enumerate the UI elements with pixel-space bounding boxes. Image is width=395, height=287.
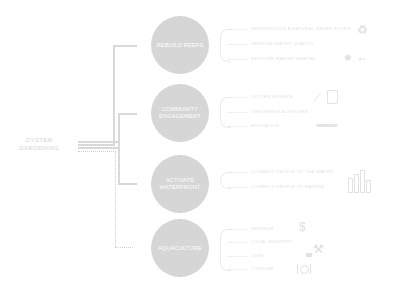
connector-vertical-reefs (113, 45, 115, 145)
connector-vertical-waterfront (118, 147, 120, 184)
microscope-icon: ⟋ (314, 93, 321, 103)
dining-icon (297, 264, 311, 274)
dash (228, 126, 248, 127)
item-community-1: CITIZEN SCIENCE (251, 94, 293, 99)
item-waterfront-2: CONNECT PEOPLE TO NATURE (251, 184, 325, 189)
connector-horizontal-aquaculture (115, 247, 133, 248)
connector-vertical-community (118, 113, 120, 148)
basket-icon (306, 253, 312, 257)
fish-icon: ➳ (358, 54, 366, 64)
node-activate-waterfront: ACTIVATE WATERFRONT (151, 155, 209, 213)
boat-icon (316, 124, 338, 127)
dash (228, 29, 248, 30)
dash (228, 242, 248, 243)
trunk-line-3 (78, 147, 120, 149)
root-label-line1: OYSTER (8, 136, 70, 144)
item-reefs-1: REINTRODUCE A NATURAL WATER FILTER (251, 26, 351, 31)
node-label: REBUILD REEFS (156, 42, 203, 49)
dollar-icon: $ (299, 222, 306, 232)
crab-icon: ✺ (344, 53, 352, 63)
node-label-line2: ENGAGEMENT (159, 113, 201, 120)
item-waterfront-1: CONNECT PEOPLE TO THE WATER (251, 169, 333, 174)
trunk-line-dotted (78, 151, 116, 152)
brace-aquaculture (220, 229, 231, 271)
item-aquaculture-4: TOURISM (251, 266, 273, 271)
dash (228, 97, 248, 98)
node-label-line1: COMMUNITY (159, 106, 201, 113)
node-label: AQUACULTURE (158, 245, 202, 252)
root-label-oyster-gardening: OYSTER GARDENING (8, 136, 70, 152)
node-community-engagement: COMMUNITY ENGAGEMENT (151, 84, 209, 142)
dash (228, 112, 248, 113)
trunk-line-2 (78, 144, 115, 146)
dash (228, 59, 248, 60)
dash (228, 256, 248, 257)
connector-vertical-aquaculture (115, 151, 116, 247)
item-aquaculture-2: LOCAL INDUSTRY (251, 239, 293, 244)
dash (228, 44, 248, 45)
brace-reefs (220, 29, 231, 62)
connector-horizontal-community (118, 113, 137, 115)
dash (228, 229, 248, 230)
clipboard-icon (327, 90, 338, 104)
item-reefs-2: IMPROVE WATER QUALITY (251, 41, 314, 46)
node-rebuild-reefs: REBUILD REEFS (151, 16, 209, 74)
dash (228, 187, 248, 188)
root-label-line2: GARDENING (8, 144, 70, 152)
node-label-line1: ACTIVATE (160, 177, 201, 184)
city-skyline-icon (348, 170, 372, 192)
recycle-icon: ♻ (357, 25, 368, 35)
item-community-3: EDUCATION (251, 123, 279, 128)
item-aquaculture-3: JOBS (251, 253, 264, 258)
item-aquaculture-1: REVENUE (251, 226, 274, 231)
dash (228, 269, 248, 270)
worker-icon: ⚒ (313, 244, 324, 254)
item-community-2: CHILDREN'S ACTIVITIES (251, 109, 308, 114)
node-label-line2: WATERFRONT (160, 184, 201, 191)
connector-horizontal-waterfront (118, 183, 137, 185)
node-aquaculture: AQUACULTURE (151, 219, 209, 277)
connector-horizontal-reefs (113, 45, 137, 47)
dash (228, 172, 248, 173)
item-reefs-3: RESTORE MARINE HABITAT (251, 56, 316, 61)
